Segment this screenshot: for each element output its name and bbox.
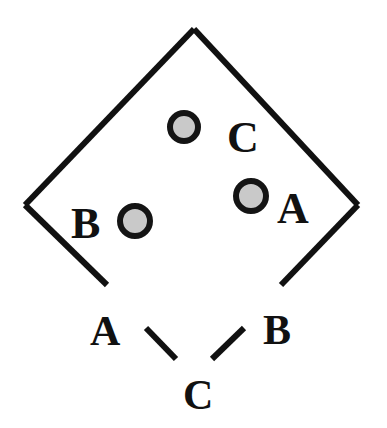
canvas-background [0,0,387,428]
label-outer-b: B [263,307,291,353]
label-inner-b: B [71,199,100,248]
diagram-canvas: C A B A B C [0,0,387,428]
circle-b [120,206,150,236]
circle-c [170,113,198,141]
label-inner-a: A [277,184,309,233]
circle-a [236,181,266,211]
label-inner-c: C [227,113,259,162]
label-outer-c: C [183,372,213,418]
figure-root: C A B A B C [0,0,387,428]
label-outer-a: A [90,308,121,354]
